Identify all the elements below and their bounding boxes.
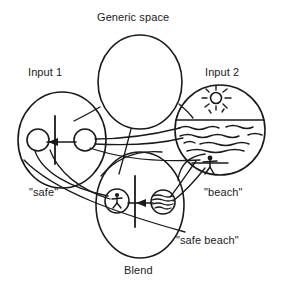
input-2-projection-label: "beach"	[204, 186, 242, 198]
input-1-projection-label: "safe"	[29, 186, 58, 198]
projection-line-input1-to-blend-b	[50, 150, 110, 199]
input-1-right-circle	[74, 129, 96, 151]
generic-space-oval	[98, 35, 182, 129]
input-1-left-circle	[27, 129, 49, 151]
blend-stick-figure-icon	[112, 193, 122, 208]
blend-projection-label: "safe beach"	[176, 234, 239, 246]
projection-line-input2-to-blend-b	[173, 168, 205, 201]
stick-figure-icon	[203, 156, 217, 174]
connector-generic-to-input2	[179, 104, 193, 118]
blend-waves-circle	[151, 190, 175, 214]
connector-generic-to-blend	[119, 129, 131, 174]
waves-icon	[179, 126, 262, 153]
blend-network-graphic	[0, 0, 282, 285]
conceptual-blending-diagram: Generic space Input 1 Input 2 Blend "saf…	[0, 0, 282, 285]
mapping-line-input1-to-input2-c	[90, 148, 200, 161]
generic-space-label: Generic space	[97, 11, 169, 23]
sun-rays-icon	[202, 86, 231, 113]
blend-left-arrow-icon	[136, 199, 146, 207]
input-1-label: Input 1	[28, 66, 62, 78]
sun-icon	[211, 93, 222, 104]
input-2-label: Input 2	[205, 66, 239, 78]
blend-label: Blend	[124, 264, 153, 276]
connector-generic-to-input1	[74, 107, 100, 121]
input-1-oval	[18, 92, 106, 188]
input-2-circle	[175, 85, 265, 175]
arc-blend-to-input1	[101, 152, 162, 176]
